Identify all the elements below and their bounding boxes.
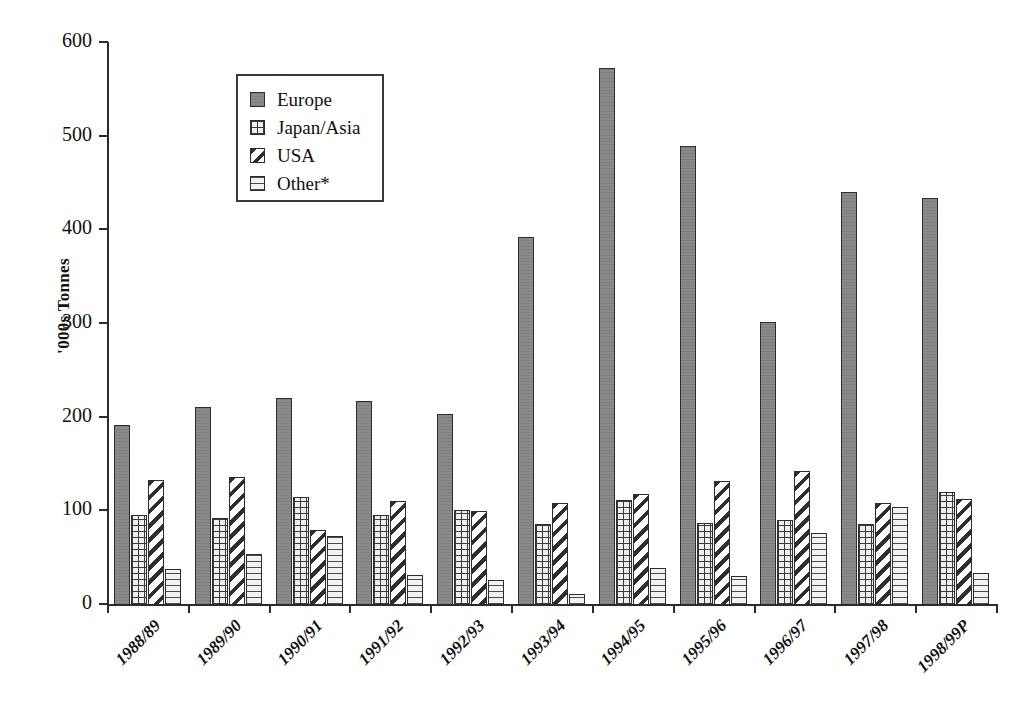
x-axis-category-label: 1988/89 xyxy=(81,616,166,701)
bar-group xyxy=(599,42,666,605)
bar-usa[interactable] xyxy=(390,501,406,605)
y-axis-label: '000s Tonnes xyxy=(54,226,74,386)
x-axis-category-label: 1997/98 xyxy=(808,616,893,701)
bar-group xyxy=(437,42,504,605)
legend-swatch-japan-asia-icon xyxy=(250,120,265,135)
bar-europe[interactable] xyxy=(760,322,776,605)
bar-group xyxy=(680,42,747,605)
bar-usa[interactable] xyxy=(471,511,487,605)
legend-swatch-europe-icon xyxy=(250,92,265,107)
bar-other[interactable] xyxy=(407,575,423,605)
y-axis-tick-label-wrap: 100 xyxy=(28,498,92,518)
bar-europe[interactable] xyxy=(680,146,696,605)
x-axis-category-label: 1994/95 xyxy=(566,616,651,701)
bar-other[interactable] xyxy=(488,580,504,605)
chart-legend: Europe Japan/Asia USA Other* xyxy=(236,74,384,202)
bar-europe[interactable] xyxy=(841,192,857,605)
bar-other[interactable] xyxy=(569,594,585,605)
bar-japan-asia[interactable] xyxy=(373,515,389,605)
bar-chart: '000s Tonnes 0100200300400500600 1988/89… xyxy=(0,0,1015,718)
legend-label-europe: Europe xyxy=(277,90,332,109)
bar-usa[interactable] xyxy=(794,471,810,605)
bar-japan-asia[interactable] xyxy=(939,492,955,605)
x-axis-tick xyxy=(269,604,271,613)
x-axis-category-label: 1995/96 xyxy=(646,616,731,701)
bar-europe[interactable] xyxy=(922,198,938,605)
bar-japan-asia[interactable] xyxy=(616,500,632,605)
x-axis-tick xyxy=(188,604,190,613)
y-axis-tick-label: 100 xyxy=(32,498,92,518)
bar-group xyxy=(518,42,585,605)
x-axis-category-label: 1989/90 xyxy=(162,616,247,701)
bar-japan-asia[interactable] xyxy=(212,518,228,605)
x-axis-tick xyxy=(430,604,432,613)
y-axis-tick-label-wrap: 500 xyxy=(28,124,92,144)
y-axis-tick-label: 0 xyxy=(32,592,92,612)
legend-swatch-other-icon xyxy=(250,176,265,191)
x-axis-tick xyxy=(349,604,351,613)
bar-other[interactable] xyxy=(811,533,827,605)
bar-europe[interactable] xyxy=(195,407,211,605)
bar-japan-asia[interactable] xyxy=(535,524,551,605)
bar-other[interactable] xyxy=(165,569,181,605)
bar-usa[interactable] xyxy=(714,481,730,605)
x-axis-tick xyxy=(511,604,513,613)
bar-europe[interactable] xyxy=(114,425,130,605)
x-axis-category-label: 1996/97 xyxy=(727,616,812,701)
legend-label-japan-asia: Japan/Asia xyxy=(277,118,360,137)
legend-item-japan-asia[interactable]: Japan/Asia xyxy=(250,113,382,141)
bar-europe[interactable] xyxy=(599,68,615,605)
x-axis-tick xyxy=(107,604,109,613)
bar-group xyxy=(841,42,908,605)
y-axis-tick-label: 300 xyxy=(32,311,92,331)
bar-usa[interactable] xyxy=(875,503,891,605)
legend-item-europe[interactable]: Europe xyxy=(250,85,382,113)
chart-page: '000s Tonnes 0100200300400500600 1988/89… xyxy=(0,0,1015,718)
bar-usa[interactable] xyxy=(310,530,326,605)
x-axis-tick xyxy=(754,604,756,613)
y-axis-tick-label: 200 xyxy=(32,405,92,425)
y-axis-tick-label: 400 xyxy=(32,217,92,237)
bar-group xyxy=(922,42,989,605)
bar-other[interactable] xyxy=(246,554,262,605)
y-axis-tick-label: 500 xyxy=(32,124,92,144)
x-axis-tick xyxy=(915,604,917,613)
bar-japan-asia[interactable] xyxy=(697,523,713,605)
bar-group xyxy=(114,42,181,605)
legend-swatch-usa-icon xyxy=(250,148,265,163)
y-axis-tick-label: 600 xyxy=(32,30,92,50)
bar-japan-asia[interactable] xyxy=(131,515,147,605)
bar-europe[interactable] xyxy=(276,398,292,605)
bar-usa[interactable] xyxy=(148,480,164,605)
x-axis-tick xyxy=(673,604,675,613)
bar-usa[interactable] xyxy=(552,503,568,605)
legend-label-usa: USA xyxy=(277,146,315,165)
legend-item-usa[interactable]: USA xyxy=(250,141,382,169)
bar-other[interactable] xyxy=(973,573,989,605)
bar-japan-asia[interactable] xyxy=(454,510,470,605)
bar-japan-asia[interactable] xyxy=(777,520,793,605)
bar-europe[interactable] xyxy=(437,414,453,605)
y-axis-tick-label-wrap: 600 xyxy=(28,30,92,50)
y-axis-tick-label-wrap: 0 xyxy=(28,592,92,612)
bar-usa[interactable] xyxy=(229,477,245,605)
bar-japan-asia[interactable] xyxy=(293,497,309,605)
bar-other[interactable] xyxy=(327,536,343,605)
x-axis-category-label: 1990/91 xyxy=(242,616,327,701)
x-axis-tick xyxy=(834,604,836,613)
bar-other[interactable] xyxy=(892,507,908,605)
bar-europe[interactable] xyxy=(518,237,534,605)
x-axis-tick xyxy=(592,604,594,613)
bar-usa[interactable] xyxy=(956,499,972,605)
legend-item-other[interactable]: Other* xyxy=(250,169,382,197)
legend-label-other: Other* xyxy=(277,174,330,193)
y-axis-tick-label-wrap: 400 xyxy=(28,217,92,237)
bar-other[interactable] xyxy=(650,568,666,605)
bar-other[interactable] xyxy=(731,576,747,605)
bar-group xyxy=(760,42,827,605)
bar-usa[interactable] xyxy=(633,494,649,605)
bar-japan-asia[interactable] xyxy=(858,524,874,605)
bar-europe[interactable] xyxy=(356,401,372,605)
y-axis-tick-label-wrap: 200 xyxy=(28,405,92,425)
y-axis-tick-label-wrap: 300 xyxy=(28,311,92,331)
